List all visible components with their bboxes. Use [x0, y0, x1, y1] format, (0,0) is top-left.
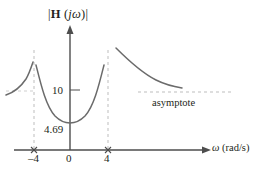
y-tick-label-10: 10 [52, 85, 63, 96]
x-tick-label-neg4: –4 [28, 153, 39, 164]
title-paren-close: )| [81, 7, 88, 21]
x-axis-label: ω (rad/s) [212, 143, 249, 154]
x-tick-label-pos4: 4 [104, 153, 110, 164]
curve-left-branch [6, 62, 33, 95]
title-omega-symbol: ω [72, 7, 81, 21]
x-tick-label-zero: 0 [66, 153, 72, 164]
title-h-symbol: H [51, 7, 61, 21]
minimum-value-label: 4.69 [44, 124, 63, 135]
curve-right-branch [116, 48, 182, 88]
asymptote-label: asymptote [152, 98, 195, 109]
x-axis-units: (rad/s) [219, 142, 249, 153]
y-axis-arrowhead [67, 25, 74, 34]
plot-title: |H (jω)| [48, 8, 88, 21]
figure-container: |H (jω)| 10 4.69 –4 0 4 ω (rad/s) asympt… [0, 0, 262, 170]
x-axis-arrowhead [202, 147, 211, 154]
